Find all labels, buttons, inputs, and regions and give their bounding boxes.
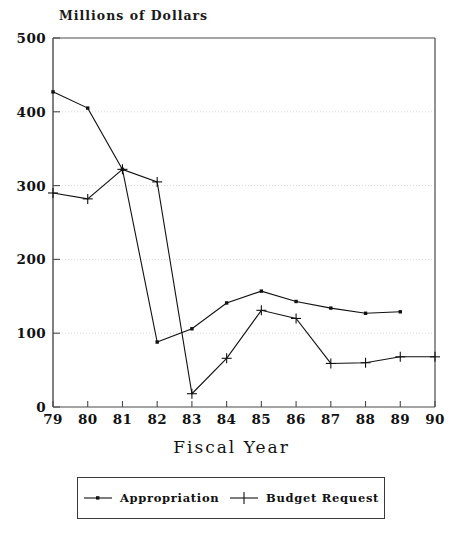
data-point-marker	[291, 313, 301, 323]
x-tick-label: 82	[147, 411, 167, 427]
data-point-marker	[364, 312, 367, 315]
y-tick-label: 500	[17, 30, 46, 46]
data-point-marker	[155, 340, 158, 343]
data-point-marker	[294, 300, 297, 303]
x-tick-label: 90	[425, 411, 445, 427]
x-axis-title: Fiscal Year	[0, 437, 463, 457]
data-point-marker	[361, 358, 371, 368]
legend-item-budget-request[interactable]: Budget Request	[229, 491, 379, 505]
data-series-layer	[48, 90, 440, 399]
data-point-marker	[395, 352, 405, 362]
y-axis-tick-labels: 0100200300400500	[17, 30, 46, 415]
y-tick-label: 300	[17, 178, 46, 194]
x-tick-label: 84	[217, 411, 237, 427]
legend-marker-dot-icon	[83, 491, 113, 505]
data-point-marker	[260, 289, 263, 292]
data-point-marker	[51, 90, 54, 93]
x-tick-label: 88	[356, 411, 376, 427]
data-point-marker	[152, 177, 162, 187]
x-tick-label: 81	[113, 411, 133, 427]
x-tick-label: 89	[390, 411, 410, 427]
y-tick-label: 200	[17, 251, 46, 267]
data-point-marker	[329, 306, 332, 309]
x-tick-label: 87	[321, 411, 341, 427]
x-tick-label: 80	[78, 411, 98, 427]
legend-label-budget-request: Budget Request	[266, 491, 379, 505]
data-point-marker	[190, 327, 193, 330]
legend-label-appropriation: Appropriation	[120, 491, 219, 505]
legend-marker-plus-icon	[229, 491, 259, 505]
data-point-marker	[48, 188, 58, 198]
x-tick-label: 79	[43, 411, 63, 427]
data-point-marker	[225, 301, 228, 304]
data-series-budget-request	[48, 164, 440, 398]
x-axis-tick-labels: 798081828384858687888990	[43, 411, 445, 427]
chart-legend: Appropriation Budget Request	[77, 477, 385, 519]
chart-page: Millions of Dollars 0100200300400500 798…	[0, 0, 463, 544]
y-tick-label: 400	[17, 104, 46, 120]
gridlines	[53, 112, 435, 333]
data-series-appropriation	[51, 90, 402, 344]
data-point-marker	[430, 352, 440, 362]
x-tick-label: 83	[182, 411, 202, 427]
data-point-marker	[86, 106, 89, 109]
data-point-marker	[326, 358, 336, 368]
x-tick-label: 85	[252, 411, 272, 427]
line-chart: 0100200300400500 79808182838485868788899…	[0, 0, 463, 470]
y-tick-label: 100	[17, 325, 46, 341]
data-point-marker	[256, 305, 266, 315]
legend-item-appropriation[interactable]: Appropriation	[83, 491, 219, 505]
x-axis-ticks	[53, 401, 435, 407]
x-tick-label: 86	[286, 411, 306, 427]
plot-frame	[53, 38, 435, 407]
data-point-marker	[399, 310, 402, 313]
